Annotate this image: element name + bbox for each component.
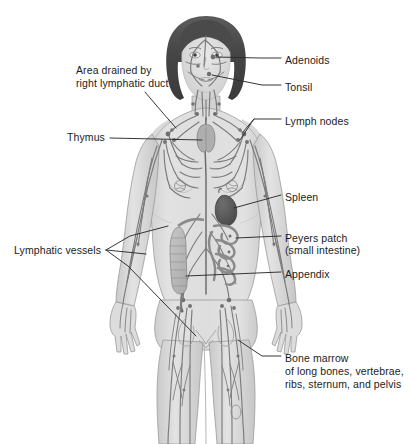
peyers-patch-marker [229,235,232,238]
leader-area-drained [145,92,176,128]
head [166,16,246,100]
tonsil-node [207,72,211,76]
label-bone-marrow-line3: ribs, sternum, and pelvis [285,378,401,391]
label-area-drained-line1: Area drained by [76,64,152,77]
appendix-organ [181,294,182,310]
label-bone-marrow-line2: of long bones, vertebrae, [285,365,404,378]
label-bone-marrow-line1: Bone marrow [285,352,349,365]
label-adenoids: Adenoids [285,54,330,67]
label-area-drained-line2: right lymphatic duct [76,77,168,90]
label-thymus: Thymus [67,131,105,144]
label-peyers-patch-line2: (small intestine) [285,244,360,257]
label-peyers-patch-line1: Peyers patch [285,232,347,245]
lymphatic-system-diagram: Adenoids Tonsil Area drained by right ly… [0,0,412,444]
label-tonsil: Tonsil [285,81,312,94]
adenoid-node [211,55,216,60]
label-appendix: Appendix [285,268,330,281]
label-spleen: Spleen [285,191,318,204]
label-lymph-nodes: Lymph nodes [285,115,349,128]
label-lymphatic-vessels: Lymphatic vessels [14,244,101,257]
